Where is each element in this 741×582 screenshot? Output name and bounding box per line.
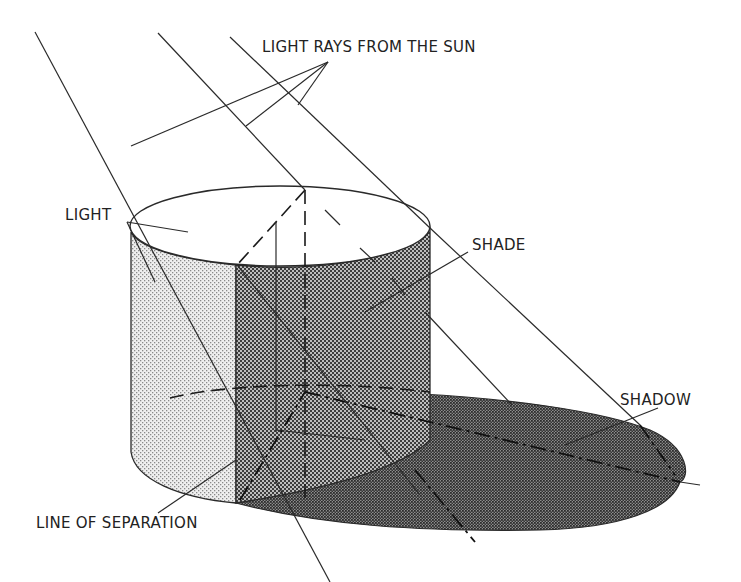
cylinder-light-shadow-diagram: LIGHT RAYS FROM THE SUN LIGHT SHADE SHAD… <box>0 0 741 582</box>
cylinder-top <box>130 186 430 266</box>
rays-leader-2 <box>246 62 328 126</box>
label-light-rays: LIGHT RAYS FROM THE SUN <box>262 38 476 56</box>
label-shade: SHADE <box>472 236 526 254</box>
sun-ray-3-ground <box>430 228 640 425</box>
label-light: LIGHT <box>65 206 112 224</box>
shadow-axis-extension <box>680 482 700 485</box>
label-shadow: SHADOW <box>620 391 691 409</box>
label-line-of-separation: LINE OF SEPARATION <box>36 514 198 532</box>
light-side <box>131 232 236 503</box>
sun-ray-2 <box>158 33 305 190</box>
sun-ray-ground-1 <box>425 312 512 405</box>
